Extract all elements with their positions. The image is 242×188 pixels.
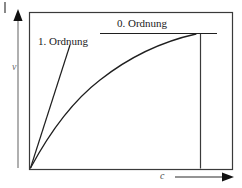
zero-order-label: 0. Ordnung	[117, 18, 167, 29]
x-axis-arrow	[175, 172, 234, 181]
x-axis-label: c	[160, 171, 164, 181]
y-axis-arrow	[13, 9, 22, 168]
kinetics-figure: 0. Ordnung 1. Ordnung v c	[0, 0, 242, 188]
y-axis-label: v	[12, 62, 16, 72]
saturation-curve	[31, 34, 197, 168]
first-order-label: 1. Ordnung	[38, 36, 88, 47]
first-order-tangent-line	[31, 45, 71, 168]
